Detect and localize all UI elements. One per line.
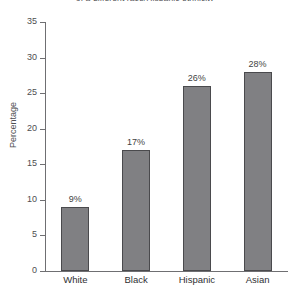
y-tick-label: 30 — [7, 53, 37, 62]
bar-chart: of a different race/Hispanic ethnicity P… — [0, 0, 290, 291]
y-tick-label: 5 — [7, 230, 37, 239]
y-tick — [40, 164, 45, 165]
bar-value-label: 26% — [177, 74, 217, 83]
chart-title: of a different race/Hispanic ethnicity — [0, 0, 290, 1]
y-tick — [40, 129, 45, 130]
y-tick — [40, 271, 45, 272]
bar — [183, 86, 211, 271]
bar-value-label: 17% — [116, 138, 156, 147]
y-tick-label: 20 — [7, 124, 37, 133]
y-tick — [40, 93, 45, 94]
bar-value-label: 9% — [55, 195, 95, 204]
y-axis-line — [45, 22, 46, 272]
y-tick-label: 25 — [7, 88, 37, 97]
y-tick-label: 0 — [7, 266, 37, 275]
bar — [244, 72, 272, 271]
y-tick-label: 10 — [7, 195, 37, 204]
x-tick-label: Asian — [223, 275, 290, 285]
x-axis-line — [45, 271, 288, 272]
y-tick — [40, 22, 45, 23]
y-tick-label: 35 — [7, 17, 37, 26]
y-tick — [40, 58, 45, 59]
bar — [61, 207, 89, 271]
x-tick-label: White — [40, 275, 110, 285]
x-tick-label: Black — [101, 275, 171, 285]
bar — [122, 150, 150, 271]
bar-value-label: 28% — [238, 60, 278, 69]
y-tick — [40, 200, 45, 201]
x-tick-label: Hispanic — [162, 275, 232, 285]
y-tick — [40, 235, 45, 236]
y-tick-label: 15 — [7, 159, 37, 168]
